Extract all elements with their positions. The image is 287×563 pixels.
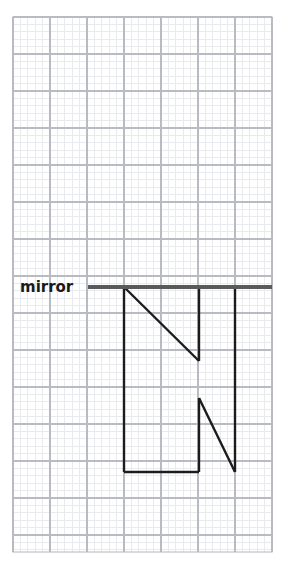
worksheet-canvas: mirror xyxy=(0,0,287,563)
mirror-label: mirror xyxy=(20,278,74,296)
reflection-figure: mirror xyxy=(0,0,287,563)
